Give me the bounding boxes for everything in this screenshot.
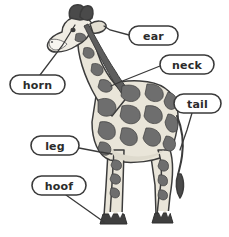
patch xyxy=(111,160,122,170)
leader-line-hoof xyxy=(66,195,104,222)
label-hoof[interactable]: hoof xyxy=(32,176,86,195)
label-tail-text: tail xyxy=(187,98,208,111)
patch xyxy=(158,190,168,200)
patch xyxy=(98,98,116,116)
label-horn-text: horn xyxy=(23,79,52,92)
diagram-canvas: ear neck tail horn leg hoof xyxy=(0,0,229,237)
hoof-hind xyxy=(152,213,173,223)
patch xyxy=(110,188,120,198)
label-ear-text: ear xyxy=(143,30,164,43)
leader-line-ear xyxy=(104,26,129,35)
label-horn[interactable]: horn xyxy=(10,75,65,94)
label-neck[interactable]: neck xyxy=(160,55,214,74)
nostril xyxy=(51,41,53,43)
label-hoof-text: hoof xyxy=(45,180,74,193)
label-leg[interactable]: leg xyxy=(31,136,79,155)
patch xyxy=(158,160,169,171)
giraffe-anatomy-diagram: ear neck tail horn leg hoof xyxy=(0,0,229,237)
label-ear[interactable]: ear xyxy=(129,26,178,45)
patch xyxy=(75,33,86,42)
tail-tuft xyxy=(176,174,183,198)
label-tail[interactable]: tail xyxy=(174,94,221,113)
patch xyxy=(110,174,121,184)
patch xyxy=(121,85,140,102)
label-leg-text: leg xyxy=(45,140,65,153)
patch xyxy=(158,175,168,186)
label-neck-text: neck xyxy=(172,59,202,72)
